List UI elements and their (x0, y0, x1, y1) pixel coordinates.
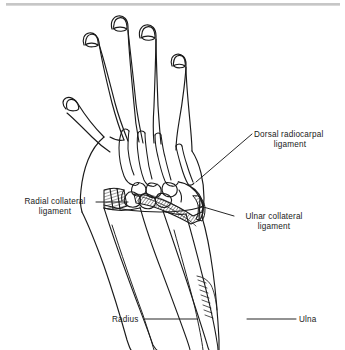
thumb (63, 97, 110, 152)
label-ulnar-collateral-ligament: Ulnar collateral ligament (236, 212, 312, 232)
label-dorsal-radiocarpal-ligament: Dorsal radiocarpal ligament (254, 130, 326, 150)
ring-finger (139, 25, 161, 144)
metacarpal-bones (119, 129, 194, 186)
index-finger (83, 33, 128, 141)
forearm-contour-lines (112, 225, 203, 350)
label-ulnar-collateral-line1: Ulnar collateral (236, 212, 312, 222)
leader-dorsal-radiocarpal (196, 134, 252, 182)
ulna-bone (163, 211, 218, 350)
label-radial-collateral-ligament: Radial collateral ligament (16, 197, 94, 217)
figure-panel: Dorsal radiocarpal ligament Radial colla… (0, 0, 345, 350)
forearm-outline (82, 212, 219, 350)
label-dorsal-radiocarpal-line1: Dorsal radiocarpal (254, 130, 326, 140)
hand-dorsum-outline (80, 137, 204, 217)
top-rule (6, 4, 340, 5)
middle-finger (111, 16, 143, 143)
radial-collateral-ligament (104, 188, 127, 209)
label-radius: Radius (112, 315, 138, 325)
label-radial-collateral-line1: Radial collateral (16, 197, 94, 207)
label-radial-collateral-line2: ligament (16, 207, 94, 217)
label-dorsal-radiocarpal-line2: ligament (254, 140, 326, 150)
label-ulna: Ulna (299, 315, 317, 325)
little-finger (171, 54, 192, 151)
wrist-anatomy-illustration (0, 0, 345, 350)
label-ulnar-collateral-line2: ligament (236, 222, 312, 232)
dorsal-radiocarpal-ligament (134, 182, 203, 226)
